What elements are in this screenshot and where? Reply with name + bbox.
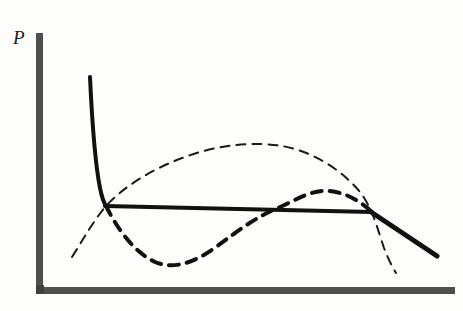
axes-group bbox=[36, 33, 455, 294]
curves-group bbox=[72, 77, 437, 273]
maxwell-construction-tie-line bbox=[105, 206, 372, 212]
x-axis-bar bbox=[36, 287, 455, 294]
solid-isotherm-gas-branch bbox=[371, 212, 437, 256]
thick-dashed-vdw-isotherm bbox=[106, 191, 372, 266]
solid-isotherm-steep-branch bbox=[90, 77, 106, 206]
axis-corner-joint bbox=[36, 285, 44, 294]
y-axis-bar bbox=[36, 33, 43, 292]
isotherm-plot-svg bbox=[0, 0, 463, 311]
phase-diagram-figure: P bbox=[0, 0, 463, 311]
